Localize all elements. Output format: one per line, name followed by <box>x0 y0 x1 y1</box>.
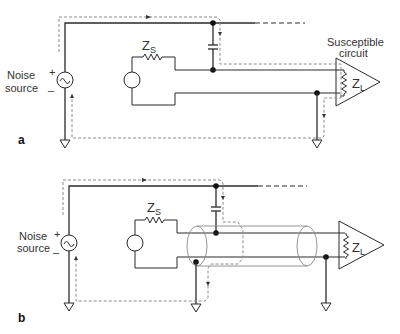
panel-label-a: a <box>18 133 25 147</box>
plus-sign: + <box>49 66 55 78</box>
noise-source-label-line1: Noise <box>7 69 35 81</box>
susceptible-label-line2: circuit <box>339 47 368 59</box>
coaxial-shield <box>187 226 317 266</box>
ground-icon <box>321 303 331 311</box>
source-impedance-icon <box>145 217 164 223</box>
zl-symbol: Z <box>352 76 360 91</box>
zl-subscript: L <box>360 83 365 93</box>
noise-source-label-line2: source <box>17 242 50 254</box>
load-impedance-icon <box>344 233 349 259</box>
zs-symbol: Z <box>147 200 155 215</box>
noise-conductor-a <box>65 23 213 72</box>
ground-icon <box>64 303 74 311</box>
load-impedance-icon <box>342 70 347 96</box>
signal-source-icon <box>127 235 143 251</box>
minus-sign: – <box>53 246 60 258</box>
panel-b: b Noise source + – Z S <box>17 178 384 325</box>
noise-source-a: Noise source + – <box>5 66 73 96</box>
panel-a: a Noise source + – Z S <box>5 15 384 148</box>
ground-icon <box>60 140 70 148</box>
coupling-diagram: a Noise source + – Z S <box>0 0 400 334</box>
signal-source-icon <box>124 72 140 88</box>
noise-source-label-line1: Noise <box>19 230 47 242</box>
noise-source-b: Noise source + – <box>17 228 77 258</box>
zs-symbol: Z <box>142 38 150 53</box>
noise-current-path-a <box>59 17 341 138</box>
ground-icon <box>312 140 322 148</box>
panel-label-b: b <box>18 311 25 325</box>
minus-sign: – <box>48 84 55 96</box>
ground-icon <box>191 304 201 312</box>
zs-subscript: S <box>155 207 161 217</box>
noise-source-label-line2: source <box>5 82 38 94</box>
noise-conductor-b <box>69 186 216 235</box>
plus-sign: + <box>54 228 60 240</box>
zl-symbol: Z <box>352 240 360 255</box>
zs-subscript: S <box>150 45 156 55</box>
zl-subscript: L <box>360 247 365 257</box>
